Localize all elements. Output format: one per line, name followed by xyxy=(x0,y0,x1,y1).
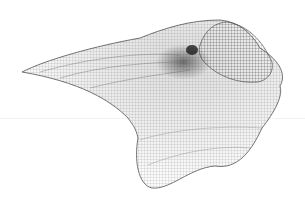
wireframe-mesh xyxy=(0,0,305,206)
render-canvas xyxy=(0,0,305,206)
